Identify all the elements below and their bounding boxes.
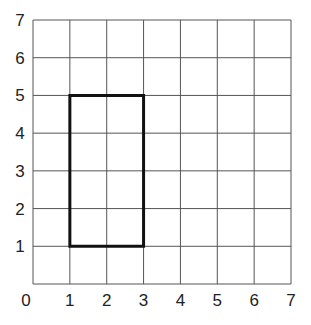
x-axis-label: 1 [65, 291, 74, 310]
x-axis-label: 7 [286, 291, 295, 310]
x-axis-label: 5 [213, 291, 222, 310]
y-axis-label: 3 [15, 162, 24, 181]
y-axis-label: 2 [15, 200, 24, 219]
x-axis-label: 6 [249, 291, 258, 310]
y-axis-label: 7 [15, 11, 24, 30]
y-axis-label: 1 [15, 237, 24, 256]
coordinate-grid-diagram: 012345671234567 [0, 0, 311, 325]
x-axis-label: 2 [102, 291, 111, 310]
x-axis-label: 0 [21, 291, 30, 310]
x-axis-label: 3 [139, 291, 148, 310]
y-axis-label: 6 [15, 49, 24, 68]
y-axis-label: 5 [15, 86, 24, 105]
x-axis-label: 4 [176, 291, 185, 310]
y-axis-label: 4 [15, 124, 24, 143]
